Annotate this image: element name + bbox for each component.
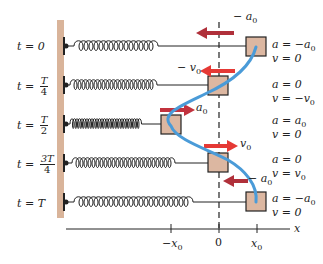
time-label-tT4: t = T4 [17,76,48,97]
arrow-label-row3: v0 [240,137,251,152]
row-t3T4-spring-block [64,140,239,172]
state-label-row0: a = −a0 v = 0 [272,40,316,68]
wall [57,20,64,218]
shm-spring-diagram: t = 0 t = T4 t = T2 t = 3T4 t = T a = −a… [0,0,323,264]
row-t0-spring-block [64,27,267,56]
time-label-t3T4: t = 3T4 [17,154,55,175]
time-label-tT: t = T [17,197,45,210]
axis-label-x: x [294,222,300,235]
row-tT-spring-block [64,175,267,211]
arrow-label-row4: − a0 [248,172,272,187]
spring-coil [74,41,246,51]
axis-tick-zero: 0 [215,236,222,249]
arrow-label-row1: − v0 [177,61,201,76]
spring-coil [66,80,208,90]
x-axis [66,224,290,233]
state-label-row3: a = 0 v = v0 [272,155,306,183]
state-label-row1: a = 0 v = −v0 [272,80,315,108]
time-label-tT2: t = T2 [17,115,48,136]
spring-coil [66,158,208,168]
spring-coil [66,119,163,129]
arrow-label-row2: a0 [196,101,208,116]
axis-tick-x0: x0 [251,237,262,252]
arrow-label-row0: − a0 [233,10,257,25]
time-label-t0: t = 0 [17,40,45,53]
axis-tick-neg-x0: −x0 [162,237,183,252]
state-label-row2: a = a0 v = 0 [272,116,306,144]
state-label-row4: a = −a0 v = 0 [272,194,316,222]
